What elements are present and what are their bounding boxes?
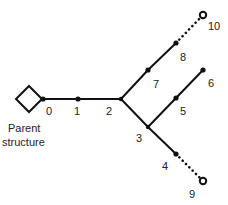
edge-2-7 <box>121 70 148 99</box>
parent-structure-diamond <box>16 86 42 112</box>
node-7 <box>145 67 150 72</box>
node-9 <box>200 178 206 184</box>
node-label-7: 7 <box>153 78 159 90</box>
parent-label-line2: structure <box>2 136 45 148</box>
edge-5-6 <box>176 70 203 98</box>
node-label-10: 10 <box>208 20 220 32</box>
node-label-4: 4 <box>162 160 168 172</box>
tree-diagram: Parent structure 0 1 2 3 4 5 6 7 8 9 10 <box>0 0 228 205</box>
node-6 <box>200 67 205 72</box>
node-8 <box>173 40 178 45</box>
edge-2-3 <box>121 99 148 127</box>
node-10 <box>200 12 206 18</box>
node-4 <box>173 151 178 156</box>
node-2 <box>119 97 123 101</box>
node-5 <box>173 95 178 100</box>
edge-3-4 <box>148 127 176 154</box>
parent-label-line1: Parent <box>8 122 40 134</box>
node-label-3: 3 <box>136 132 142 144</box>
edge-4-9 <box>176 154 203 181</box>
node-label-1: 1 <box>74 105 80 117</box>
node-3 <box>146 125 150 129</box>
edge-3-5 <box>148 98 176 127</box>
node-label-9: 9 <box>189 188 195 200</box>
node-label-8: 8 <box>180 51 186 63</box>
node-label-5: 5 <box>180 105 186 117</box>
edge-7-8 <box>148 43 176 70</box>
node-0 <box>40 96 45 101</box>
node-label-6: 6 <box>208 77 214 89</box>
node-label-2: 2 <box>106 105 112 117</box>
node-1 <box>75 96 80 101</box>
node-label-0: 0 <box>46 105 52 117</box>
edge-8-10 <box>176 15 203 43</box>
